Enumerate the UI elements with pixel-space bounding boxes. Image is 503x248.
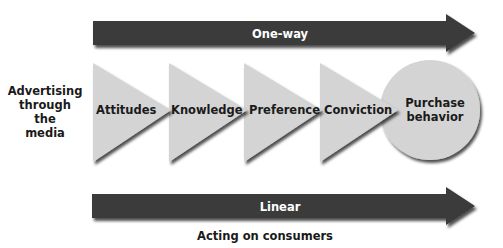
one-way-label: One-way: [230, 27, 330, 41]
outcome-label-line: Purchase: [395, 96, 475, 110]
source-label-line: media: [4, 126, 86, 140]
linear-label: Linear: [230, 200, 330, 214]
source-label-line: through: [4, 98, 86, 112]
source-label-line: Advertising: [4, 84, 86, 98]
outcome-label-line: behavior: [395, 110, 475, 124]
source-label: Advertising through the media: [4, 84, 86, 140]
stage-label-attitudes: Attitudes: [96, 103, 158, 117]
source-label-line: the: [4, 112, 86, 126]
caption: Acting on consumers: [180, 229, 350, 243]
stage-label-conviction: Conviction: [324, 103, 396, 117]
outcome-label: Purchase behavior: [395, 96, 475, 124]
stage-label-knowledge: Knowledge: [171, 103, 243, 117]
stage-label-preference: Preference: [249, 103, 321, 117]
